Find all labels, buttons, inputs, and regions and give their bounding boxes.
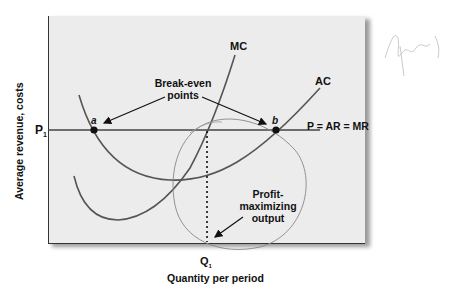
- point-a: [90, 126, 97, 133]
- profit-line1: Profit-: [238, 188, 298, 200]
- point-b: [272, 126, 279, 133]
- break-even-annotation: Break-even points: [153, 77, 213, 101]
- price-line-label: P = AR = MR: [307, 120, 369, 132]
- point-b-label: b: [272, 115, 278, 127]
- profit-line3: output: [238, 212, 298, 224]
- price-tick-label: P1: [35, 124, 47, 141]
- handwritten-scribble: [380, 18, 450, 88]
- break-even-line1: Break-even: [153, 77, 213, 89]
- mc-label: MC: [230, 40, 247, 52]
- point-a-label: a: [91, 115, 97, 127]
- quantity-tick-label: Q1: [200, 255, 212, 272]
- handdrawn-arc: [190, 122, 222, 133]
- ac-label: AC: [315, 75, 331, 87]
- y-axis-label: Average revenue, costs: [13, 82, 25, 200]
- handdrawn-circle: [173, 119, 306, 249]
- break-even-line2: points: [153, 89, 213, 101]
- profit-maximizing-annotation: Profit- maximizing output: [238, 188, 298, 224]
- ac-curve: [79, 88, 320, 180]
- x-axis-label: Quantity per period: [167, 272, 264, 284]
- profit-line2: maximizing: [238, 200, 298, 212]
